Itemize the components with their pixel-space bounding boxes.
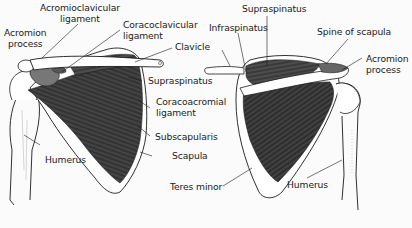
label-infraspinatus: Infraspinatus bbox=[209, 23, 268, 34]
label-supraspinatus-anterior: Supraspinatus bbox=[148, 76, 212, 87]
label-spine-of-scapula: Spine of scapula bbox=[317, 27, 391, 38]
label-acromion-process-posterior: Acromion process bbox=[366, 54, 409, 75]
anterior-view bbox=[10, 24, 172, 205]
shoulder-anatomy-diagram: Acromion process Acromioclavicular ligam… bbox=[0, 0, 412, 228]
label-clavicle: Clavicle bbox=[175, 42, 210, 53]
label-subscapularis: Subscapularis bbox=[155, 132, 218, 143]
label-supraspinatus-posterior: Supraspinatus bbox=[242, 4, 306, 15]
label-teres-minor: Teres minor bbox=[170, 182, 222, 193]
humerus-bone bbox=[10, 90, 39, 205]
label-scapula: Scapula bbox=[172, 151, 208, 162]
clavicle-end bbox=[205, 67, 244, 75]
label-coracoclavicular-ligament: Coracoclavicular ligament bbox=[123, 20, 198, 41]
label-humerus-anterior: Humerus bbox=[45, 155, 86, 166]
label-acromion-process-anterior: Acromion process bbox=[4, 28, 47, 49]
posterior-view bbox=[205, 16, 362, 210]
label-acromioclavicular-ligament: Acromioclavicular ligament bbox=[40, 3, 120, 24]
label-humerus-posterior: Humerus bbox=[287, 180, 328, 191]
label-coracoacromial-ligament: Coracoacromial ligament bbox=[156, 97, 226, 118]
